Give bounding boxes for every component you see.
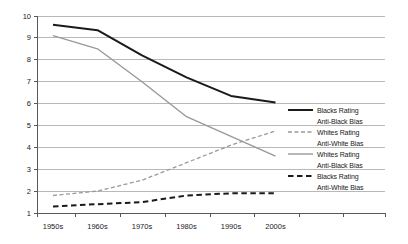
x-axis-label: 2000s [265,222,286,231]
y-axis-label: 6 [27,99,31,108]
y-axis-label: 8 [27,55,31,64]
y-axis-label: 10 [23,12,31,21]
series-line-whites-rating-anti-black-bias [53,36,276,156]
legend-label: Anti-Black Bias [317,118,363,125]
x-axis-label: 1980s [176,222,197,231]
y-axis-label: 2 [27,187,31,196]
legend-label: Blacks Rating [317,107,359,115]
legend-label: Anti-White Bias [317,140,364,147]
x-axis-label: 1970s [132,222,153,231]
y-axis-label: 7 [27,77,31,86]
legend-label: Blacks Rating [317,173,359,181]
legend-label: Anti-Black Bias [317,162,363,169]
x-axis-label: 1990s [221,222,242,231]
series-line-blacks-rating-anti-black-bias [53,25,276,103]
y-axis-label: 9 [27,33,31,42]
y-axis-label: 1 [27,209,31,218]
legend-label: Anti-White Bias [317,184,364,191]
y-axis-label: 4 [27,143,31,152]
series-line-blacks-rating-anti-white-bias [53,193,276,206]
chart-canvas: 123456789101950s1960s1970s1980s1990s2000… [0,0,408,244]
legend-label: Whites Rating [317,151,359,159]
x-axis-label: 1950s [43,222,64,231]
bias-perception-line-chart: 123456789101950s1960s1970s1980s1990s2000… [0,0,408,244]
legend-label: Whites Rating [317,129,359,137]
x-axis-label: 1960s [87,222,108,231]
y-axis-label: 3 [27,165,31,174]
y-axis-label: 5 [27,121,31,130]
